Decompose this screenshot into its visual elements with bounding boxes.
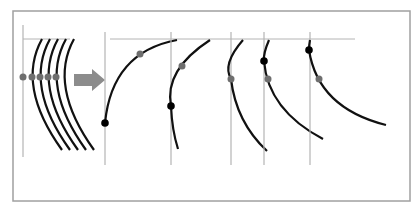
gray-dot-5 xyxy=(53,74,60,81)
parallel-curve-2 xyxy=(41,39,70,150)
panel-1-black-dot xyxy=(101,119,109,127)
panel-1-gray-dot xyxy=(137,51,144,58)
parallel-curve-3 xyxy=(49,39,78,150)
gray-dot-2 xyxy=(29,74,36,81)
panel-5-curve xyxy=(309,40,386,125)
panel-4-curve xyxy=(264,40,323,139)
panel-4-black-dot xyxy=(260,57,268,65)
panel-3-curve xyxy=(228,40,267,151)
parallel-curve-5 xyxy=(65,39,94,150)
panel-5-gray-dot xyxy=(316,76,323,83)
panel-3-gray-dot xyxy=(228,76,235,83)
panel-4-gray-dot xyxy=(265,76,272,83)
right-arrow-icon xyxy=(74,69,105,91)
gray-dot-3 xyxy=(37,74,44,81)
panel-5-black-dot xyxy=(305,46,313,54)
gray-dot-4 xyxy=(45,74,52,81)
panel-2-curve xyxy=(170,40,210,149)
parallel-curve-4 xyxy=(57,39,86,150)
gray-dot-1 xyxy=(20,74,27,81)
panel-2-black-dot xyxy=(167,102,175,110)
panel-2-gray-dot xyxy=(179,63,186,70)
parallel-curve-1 xyxy=(33,39,62,150)
curve-transformation-diagram xyxy=(0,0,419,208)
